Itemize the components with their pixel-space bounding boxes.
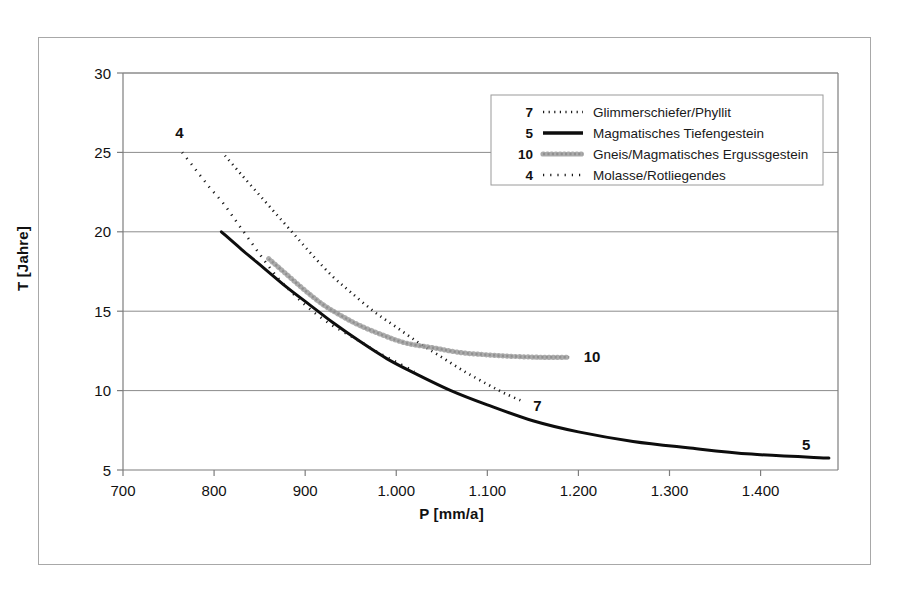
x-axis-ticks: 7008009001.0001.1001.2001.3001.400 xyxy=(110,470,779,499)
legend-label: Magmatisches Tiefengestein xyxy=(593,126,764,141)
x-tick-label: 1.000 xyxy=(377,482,415,499)
legend-number: 4 xyxy=(525,168,533,183)
x-tick-label: 1.400 xyxy=(742,482,780,499)
y-tick-label: 25 xyxy=(94,144,111,161)
legend-label: Glimmerschiefer/Phyllit xyxy=(593,105,731,120)
y-tick-label: 10 xyxy=(94,382,111,399)
series-end-label-5: 5 xyxy=(802,436,810,453)
legend-number: 5 xyxy=(525,126,533,141)
y-tick-label: 30 xyxy=(94,65,111,82)
x-tick-label: 1.300 xyxy=(651,482,689,499)
x-axis-title: P [mm/a] xyxy=(0,505,903,522)
legend-number: 10 xyxy=(518,147,533,162)
series-end-label-7: 7 xyxy=(533,397,541,414)
y-axis-title: T [Jahre] xyxy=(14,199,31,319)
series-line-7 xyxy=(225,156,524,402)
data-series-group xyxy=(182,152,829,458)
y-tick-label: 5 xyxy=(103,462,111,479)
y-axis-ticks: 51015202530 xyxy=(94,65,123,479)
legend-label: Gneis/Magmatisches Ergussgestein xyxy=(593,147,808,162)
chart-figure: 7008009001.0001.1001.2001.3001.400 51015… xyxy=(0,0,903,589)
series-end-label-10: 10 xyxy=(584,348,601,365)
x-tick-label: 800 xyxy=(202,482,227,499)
legend-number: 7 xyxy=(525,105,533,120)
x-tick-label: 1.100 xyxy=(469,482,507,499)
series-line-4 xyxy=(182,152,414,371)
x-tick-label: 900 xyxy=(293,482,318,499)
y-tick-label: 15 xyxy=(94,303,111,320)
line-chart: 7008009001.0001.1001.2001.3001.400 51015… xyxy=(0,0,903,589)
legend: 7Glimmerschiefer/Phyllit5Magmatisches Ti… xyxy=(491,95,823,185)
x-tick-label: 700 xyxy=(110,482,135,499)
x-tick-label: 1.200 xyxy=(560,482,598,499)
series-line-5 xyxy=(221,232,829,458)
series-end-label-4: 4 xyxy=(175,124,184,141)
y-tick-label: 20 xyxy=(94,223,111,240)
legend-label: Molasse/Rotliegendes xyxy=(593,168,726,183)
